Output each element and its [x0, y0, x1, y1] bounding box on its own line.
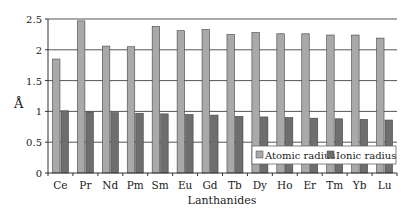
atomic-radius-bar-sm	[152, 26, 160, 173]
x-tick-label: Dy	[253, 179, 267, 191]
y-axis-ticks: 00.511.522.5	[26, 14, 48, 179]
legend-label: Ionic radius	[336, 150, 396, 161]
x-tick-label: Eu	[178, 179, 193, 191]
x-tick-label: Lu	[378, 179, 392, 191]
legend-swatch	[256, 151, 263, 158]
atomic-radius-bar-pm	[127, 47, 135, 173]
y-tick-label: 2.5	[26, 14, 42, 25]
x-tick-label: Tm	[326, 179, 343, 191]
x-axis-ticks: CePrNdPmSmEuGdTbDyHoErTmYbLu	[53, 173, 397, 191]
x-tick-label: Ce	[53, 179, 67, 191]
legend-label: Atomic radius	[264, 150, 335, 161]
atomic-radius-bar-pr	[77, 21, 85, 173]
y-tick-label: 0	[36, 168, 42, 179]
lanthanide-radius-chart: 00.511.522.5 CePrNdPmSmEuGdTbDyHoErTmYbL…	[0, 0, 413, 215]
ionic-radius-bar-ho	[285, 118, 293, 173]
x-tick-label: Sm	[152, 179, 169, 191]
y-tick-label: 1	[36, 106, 42, 117]
ionic-radius-bar-pr	[86, 112, 94, 173]
ionic-radius-bar-gd	[211, 115, 219, 173]
ionic-radius-bar-eu	[186, 114, 194, 173]
ionic-radius-bar-dy	[260, 117, 268, 173]
atomic-radius-bar-nd	[102, 46, 110, 173]
y-axis-label: Å	[13, 96, 24, 111]
x-tick-label: Tb	[228, 179, 242, 191]
x-tick-label: Er	[303, 179, 317, 191]
legend: Atomic radiusIonic radius	[252, 146, 396, 164]
chart-canvas: 00.511.522.5 CePrNdPmSmEuGdTbDyHoErTmYbL…	[0, 0, 413, 215]
atomic-radius-bar-tb	[227, 34, 235, 173]
gridlines	[48, 19, 397, 142]
y-tick-label: 2	[36, 45, 42, 56]
ionic-radius-bar-ce	[61, 111, 69, 173]
x-tick-label: Yb	[352, 179, 367, 191]
y-tick-label: 0.5	[26, 137, 42, 148]
x-axis-label: Lanthanides	[188, 194, 257, 207]
y-tick-label: 1.5	[26, 76, 42, 87]
ionic-radius-bar-tb	[235, 116, 243, 173]
atomic-radius-bar-gd	[202, 29, 210, 173]
atomic-radius-bar-eu	[177, 31, 185, 173]
atomic-radius-bar-ce	[52, 59, 60, 173]
ionic-radius-bar-sm	[161, 114, 169, 173]
x-tick-label: Pm	[127, 179, 144, 191]
ionic-radius-bar-er	[310, 118, 318, 173]
ionic-radius-bar-nd	[111, 113, 119, 173]
legend-swatch	[327, 151, 334, 158]
x-tick-label: Ho	[277, 179, 292, 191]
x-tick-label: Pr	[79, 179, 92, 191]
x-tick-label: Nd	[102, 179, 118, 191]
x-tick-label: Gd	[202, 179, 217, 191]
ionic-radius-bar-pm	[136, 113, 144, 173]
